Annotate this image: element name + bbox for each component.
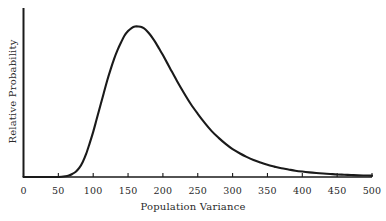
x-axis-title: Population Variance [0, 201, 386, 212]
probability-density-curve [24, 26, 373, 177]
chart-figure: 050100150200250300350400450500 Populatio… [0, 0, 386, 221]
x-tick-label: 500 [352, 185, 386, 196]
y-axis-title: Relative Probability [7, 32, 18, 152]
